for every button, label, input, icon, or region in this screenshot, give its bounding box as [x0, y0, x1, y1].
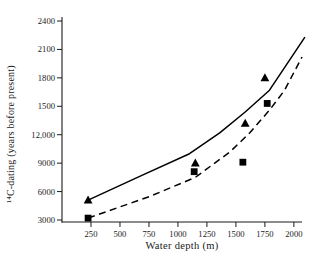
x-tick-label: 1750 [256, 229, 273, 239]
radiocarbon-vs-depth-figure: 30006000900012,0001500180021002400250500… [0, 0, 320, 271]
triangle-data-marker [191, 159, 200, 167]
square-data-marker [239, 159, 246, 166]
y-axis-title: ¹⁴C-dating (years before present) [5, 65, 16, 203]
square-data-marker [191, 168, 198, 175]
square-data-marker [85, 215, 92, 222]
y-tick-label: 2400 [38, 16, 55, 26]
x-tick-label: 2000 [285, 229, 302, 239]
x-axis-title: Water depth (m) [62, 240, 302, 251]
y-tick-label: 1800 [38, 73, 55, 83]
y-tick-label: 6000 [38, 187, 55, 197]
y-tick-label: 2100 [38, 44, 55, 54]
y-tick-label: 3000 [38, 215, 55, 225]
x-tick-label: 500 [114, 229, 127, 239]
x-tick-label: 1000 [169, 229, 186, 239]
square-data-marker [264, 100, 271, 107]
y-tick-label: 1500 [38, 101, 55, 111]
chart-canvas: 30006000900012,0001500180021002400250500… [0, 0, 320, 271]
y-tick-label: 9000 [38, 158, 55, 168]
triangle-data-marker [260, 73, 269, 81]
x-tick-label: 750 [143, 229, 156, 239]
triangle-data-marker [241, 119, 250, 127]
x-tick-label: 1250 [198, 229, 215, 239]
x-tick-label: 1500 [227, 229, 244, 239]
y-tick-label: 12,000 [31, 130, 55, 140]
dashed-trend-line [88, 57, 302, 218]
x-tick-label: 250 [85, 229, 98, 239]
